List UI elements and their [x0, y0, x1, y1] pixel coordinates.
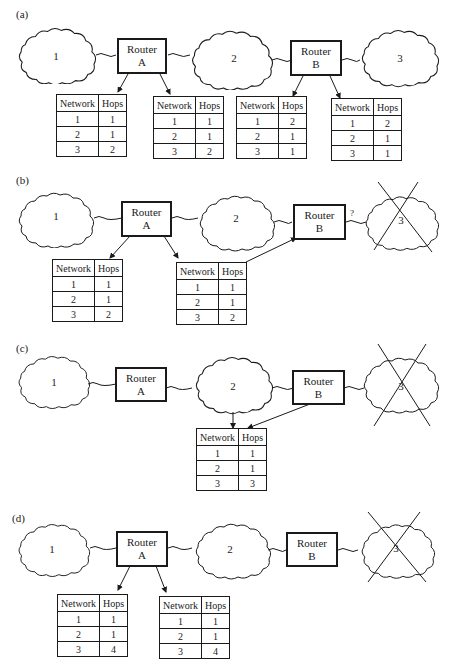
table-row: 32 [177, 310, 247, 325]
router-a: Router A [121, 201, 172, 237]
column-header: Hops [239, 429, 267, 446]
panel-label: (b) [16, 174, 29, 186]
column-header: Hops [279, 97, 307, 114]
table-row: 21 [177, 295, 247, 310]
panel-b-artwork [19, 182, 438, 262]
table-row: 21 [58, 627, 128, 642]
table-row: 32 [53, 307, 123, 322]
network-label-2: 2 [230, 380, 236, 392]
router-label: Router [132, 206, 162, 219]
unknown-link-marker: ? [350, 208, 354, 218]
router-id: B [316, 222, 323, 235]
panel-label: (a) [16, 8, 28, 20]
network-label-1: 1 [53, 210, 59, 222]
table-row: 34 [160, 644, 230, 659]
table-row: 11 [57, 112, 127, 127]
table-row: 11 [197, 446, 267, 461]
router-label: Router [297, 537, 327, 550]
table-row: 12 [332, 116, 402, 131]
table-row: 12 [237, 114, 307, 129]
table-row: 21 [154, 129, 224, 144]
table-row: 21 [53, 292, 123, 307]
panel-label: (c) [16, 342, 28, 354]
table-row: 21 [160, 629, 230, 644]
table-row: 21 [237, 129, 307, 144]
column-header: Network [237, 97, 279, 114]
column-header: Network [177, 263, 219, 280]
column-header: Network [332, 99, 374, 116]
table-row: 32 [57, 142, 127, 157]
network-label-3: 3 [393, 542, 399, 554]
router-b: Router B [286, 532, 338, 567]
routing-table: NetworkHops 11 21 33 [196, 428, 267, 491]
router-id: A [138, 56, 146, 69]
column-header: Hops [100, 595, 128, 612]
network-cloud-2 [196, 524, 270, 579]
routing-table: NetworkHops 11 21 32 [176, 262, 247, 325]
routing-table: NetworkHops 11 21 34 [159, 596, 230, 659]
router-a: Router A [117, 38, 167, 74]
network-label-3: 3 [398, 214, 404, 226]
network-label-2: 2 [231, 52, 237, 64]
routing-table: NetworkHops 11 21 34 [57, 594, 128, 657]
routing-table: NetworkHops 11 21 32 [153, 96, 224, 159]
router-a: Router A [115, 367, 167, 402]
router-label: Router [126, 372, 156, 385]
network-label-1: 1 [51, 376, 57, 388]
table-row: 11 [53, 277, 123, 292]
router-a: Router A [116, 531, 168, 567]
routing-table: NetworkHops 11 21 32 [52, 259, 123, 322]
column-header: Hops [202, 597, 230, 614]
column-header: Network [57, 95, 99, 112]
table-row: 11 [160, 614, 230, 629]
router-id: A [137, 385, 145, 398]
network-label-2: 2 [233, 212, 239, 224]
table-row: 11 [154, 114, 224, 129]
table-row: 21 [197, 461, 267, 476]
panel-c-artwork [19, 344, 439, 428]
router-label: Router [305, 209, 335, 222]
column-header: Hops [95, 260, 123, 277]
router-label: Router [127, 43, 157, 56]
router-id: B [312, 58, 319, 71]
network-label-3: 3 [397, 52, 403, 64]
router-label: Router [304, 375, 334, 388]
router-b: Router B [293, 204, 346, 240]
routing-table: NetworkHops 12 21 31 [236, 96, 307, 159]
table-row: 32 [154, 144, 224, 159]
column-header: Hops [99, 95, 127, 112]
table-row: 33 [197, 476, 267, 491]
table-row: 21 [332, 131, 402, 146]
network-label-2: 2 [227, 543, 233, 555]
table-row: 34 [58, 642, 128, 657]
router-b: Router B [290, 40, 342, 76]
column-header: Hops [196, 97, 224, 114]
network-label-1: 1 [49, 543, 55, 555]
table-row: 11 [58, 612, 128, 627]
router-id: A [143, 219, 151, 232]
column-header: Network [58, 595, 100, 612]
router-label: Router [127, 536, 157, 549]
column-header: Network [197, 429, 239, 446]
network-label-3: 3 [398, 380, 404, 392]
table-row: 31 [237, 144, 307, 159]
table-row: 11 [177, 280, 247, 295]
network-label-1: 1 [53, 50, 59, 62]
router-id: B [308, 550, 315, 563]
column-header: Hops [374, 99, 402, 116]
column-header: Network [154, 97, 196, 114]
table-row: 31 [332, 146, 402, 161]
column-header: Network [160, 597, 202, 614]
column-header: Hops [219, 263, 247, 280]
router-id: A [138, 549, 146, 562]
router-label: Router [301, 45, 331, 58]
routing-table: NetworkHops 12 21 31 [331, 98, 402, 161]
column-header: Network [53, 260, 95, 277]
table-row: 21 [57, 127, 127, 142]
routing-table: NetworkHops 11 21 32 [56, 94, 127, 157]
panel-a-artwork [19, 29, 438, 98]
router-id: B [315, 388, 322, 401]
panel-label: (d) [12, 512, 25, 524]
router-b: Router B [292, 370, 345, 405]
